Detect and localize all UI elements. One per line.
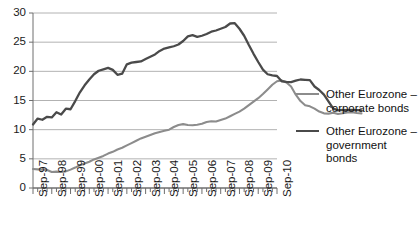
y-tick-label: 20 bbox=[0, 65, 26, 76]
x-tick-label: Sep-10 bbox=[282, 160, 293, 197]
legend-label-government-bonds: Other Eurozone – government bonds bbox=[326, 125, 418, 166]
legend-swatch-corporate-bonds bbox=[296, 88, 319, 100]
y-tick-label: 10 bbox=[0, 124, 26, 135]
line-chart-figure: 051015202530 Sep-97Sep-98Sep-99Sep-00Sep… bbox=[0, 0, 419, 248]
x-tick-label: Sep-01 bbox=[113, 160, 124, 197]
chart-legend: Other Eurozone – corporate bonds Other E… bbox=[296, 88, 418, 176]
x-tick-label: Sep-09 bbox=[263, 160, 274, 197]
legend-swatch-government-bonds bbox=[296, 125, 319, 137]
x-tick-label: Sep-98 bbox=[57, 160, 68, 197]
y-tick-marks-group bbox=[29, 13, 33, 188]
legend-label-corporate-bonds: Other Eurozone – corporate bonds bbox=[326, 88, 418, 115]
legend-item-government-bonds[interactable]: Other Eurozone – government bonds bbox=[296, 125, 418, 166]
y-tick-label: 25 bbox=[0, 36, 26, 47]
y-tick-label: 0 bbox=[0, 182, 26, 193]
legend-item-corporate-bonds[interactable]: Other Eurozone – corporate bonds bbox=[296, 88, 418, 115]
x-tick-label: Sep-00 bbox=[94, 160, 105, 197]
y-tick-label: 30 bbox=[0, 7, 26, 18]
x-tick-label: Sep-07 bbox=[226, 160, 237, 197]
x-tick-label: Sep-06 bbox=[207, 160, 218, 197]
x-tick-label: Sep-05 bbox=[188, 160, 199, 197]
x-tick-label: Sep-97 bbox=[38, 160, 49, 197]
x-tick-label: Sep-08 bbox=[244, 160, 255, 197]
x-tick-label: Sep-04 bbox=[169, 160, 180, 197]
y-tick-label: 5 bbox=[0, 153, 26, 164]
x-tick-label: Sep-02 bbox=[132, 160, 143, 197]
y-tick-label: 15 bbox=[0, 95, 26, 106]
x-tick-label: Sep-99 bbox=[76, 160, 87, 197]
x-tick-label: Sep-03 bbox=[151, 160, 162, 197]
